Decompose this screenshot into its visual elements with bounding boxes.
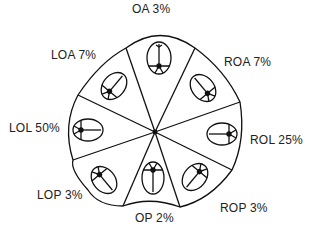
label-op: OP 2% — [135, 211, 174, 225]
label-oa: OA 3% — [132, 2, 170, 16]
head-rop-icon — [177, 158, 213, 195]
head-oa-icon — [147, 42, 171, 74]
sector-lines — [73, 48, 240, 207]
head-lop-icon — [86, 161, 122, 198]
head-rol-icon — [207, 123, 237, 145]
head-lol-icon — [73, 119, 103, 141]
label-rop: ROP 3% — [220, 201, 268, 215]
head-roa-icon — [185, 69, 221, 106]
label-lop: LOP 3% — [37, 188, 83, 202]
label-rol: ROL 25% — [250, 133, 303, 147]
label-lol: LOL 50% — [9, 121, 60, 135]
head-op-icon — [142, 162, 164, 194]
label-loa: LOA 7% — [51, 48, 96, 62]
label-roa: ROA 7% — [224, 55, 271, 69]
head-loa-icon — [96, 67, 132, 104]
